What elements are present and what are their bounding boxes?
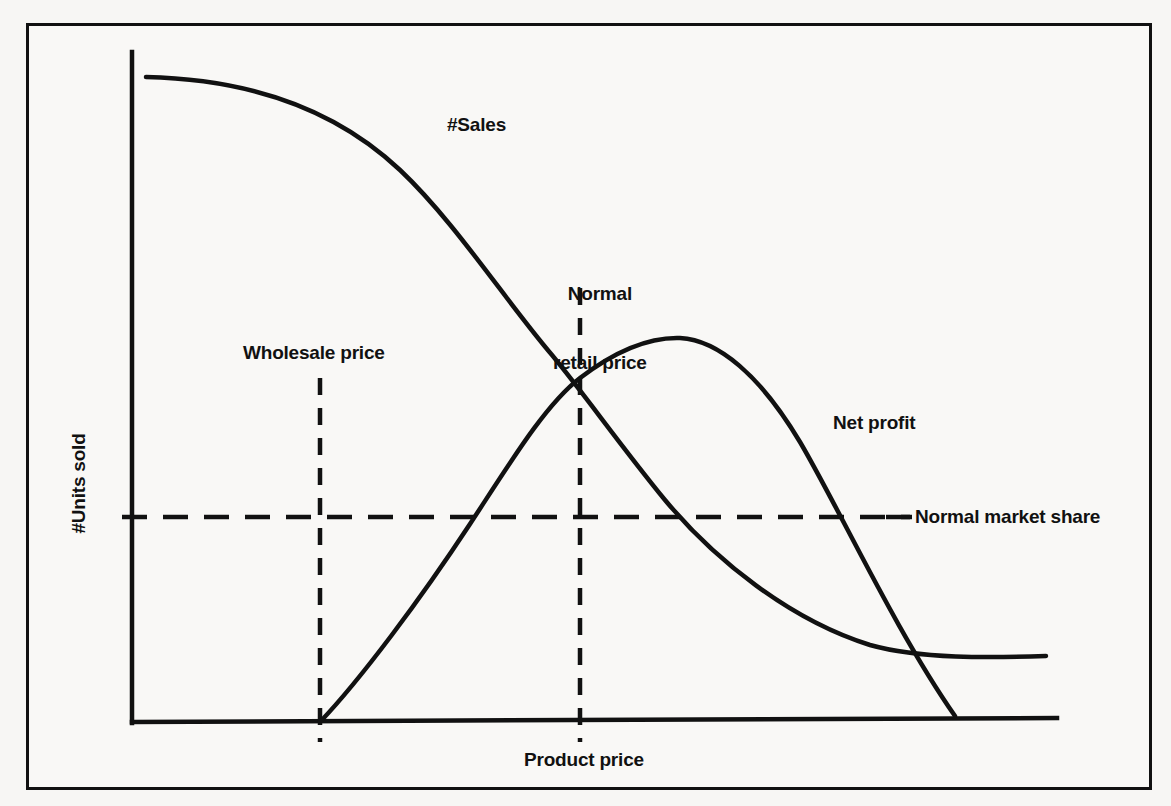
normal-retail-price-label-line2: retail price bbox=[553, 351, 647, 374]
x-axis-label: Product price bbox=[524, 748, 644, 771]
net-profit-label: Net profit bbox=[833, 411, 915, 434]
wholesale-price-label: Wholesale price bbox=[243, 341, 385, 364]
sales-label: #Sales bbox=[447, 113, 506, 136]
normal-market-share-label: Normal market share bbox=[915, 505, 1100, 528]
figure-page: #Sales Normal retail price Wholesale pri… bbox=[0, 0, 1171, 806]
normal-retail-price-label-line1: Normal bbox=[553, 282, 647, 305]
y-axis-label: #Units sold bbox=[67, 404, 90, 564]
normal-retail-price-label: Normal retail price bbox=[553, 236, 647, 420]
x-axis bbox=[132, 718, 1057, 722]
